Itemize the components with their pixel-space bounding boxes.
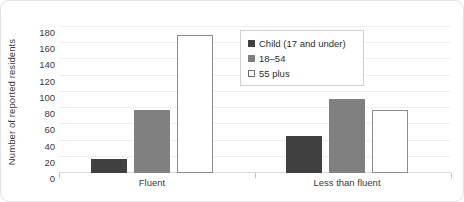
x-axis-category-label: Fluent — [139, 177, 165, 188]
legend-item: 55 plus — [248, 67, 355, 79]
gridline — [59, 107, 451, 108]
gridline — [59, 26, 451, 27]
legend-item: 18–54 — [248, 52, 355, 64]
chart-legend: Child (17 and under)18–5455 plus — [240, 30, 364, 86]
legend-label: Child (17 and under) — [259, 38, 346, 49]
legend-label: 55 plus — [259, 68, 290, 79]
bar — [286, 136, 322, 173]
legend-swatch-icon — [248, 55, 255, 62]
legend-swatch-icon — [248, 40, 255, 47]
legend-item: Child (17 and under) — [248, 37, 355, 49]
y-axis-title: Number of reported residents — [1, 1, 21, 202]
y-axis-tick-labels: 020406080100120140160180 — [19, 27, 55, 173]
legend-swatch-icon — [248, 70, 255, 77]
x-axis-category-label: Less than fluent — [313, 177, 380, 188]
x-axis-tick-mark — [255, 173, 256, 178]
bar — [329, 99, 365, 173]
bar — [91, 159, 127, 173]
gridline — [59, 91, 451, 92]
x-axis-tick-mark — [451, 173, 452, 178]
legend-label: 18–54 — [259, 53, 285, 64]
x-axis-category-labels: FluentLess than fluent — [59, 177, 451, 193]
bar-chart: Number of reported residents 02040608010… — [0, 0, 464, 202]
bar — [177, 35, 213, 173]
bar — [134, 110, 170, 173]
bar — [372, 110, 408, 173]
x-axis-tick-mark — [59, 173, 60, 178]
